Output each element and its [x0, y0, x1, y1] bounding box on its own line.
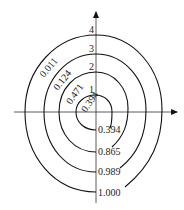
curve-index-2: 2: [89, 61, 94, 72]
start-label-4: 1.000: [98, 187, 121, 198]
start-label-2: 0.865: [98, 146, 121, 157]
start-label-3: 0.989: [98, 166, 121, 177]
curve-index-3: 3: [89, 43, 94, 54]
contour-curve-4: [25, 35, 162, 192]
arc-label-3: 0.124: [51, 68, 74, 93]
spiral-contour-diagram: 1 2 3 4 0.394 0.865 0.989 1.000 0.394 0.…: [0, 0, 184, 210]
arc-label-4: 0.011: [37, 55, 60, 79]
start-label-1: 0.394: [98, 124, 121, 135]
curve-index-4: 4: [89, 24, 94, 35]
arc-label-1: 0.394: [79, 89, 101, 114]
